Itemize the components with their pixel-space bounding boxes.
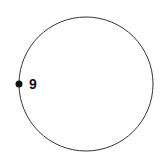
marker-dot — [16, 81, 23, 88]
marker-label: 9 — [29, 76, 37, 92]
circle-diagram: 9 — [0, 0, 166, 164]
circle-outline — [19, 17, 153, 151]
